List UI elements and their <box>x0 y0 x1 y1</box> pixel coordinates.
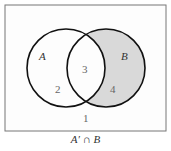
region-1-number: 1 <box>83 112 89 124</box>
label-a: A <box>38 50 46 62</box>
venn-diagram: A B 2 3 4 1 <box>0 0 171 151</box>
caption: A′ ∩ B <box>0 133 171 145</box>
region-4-number: 4 <box>110 83 116 95</box>
region-3-number: 3 <box>82 63 88 75</box>
label-b: B <box>121 50 128 62</box>
region-2-number: 2 <box>55 83 61 95</box>
